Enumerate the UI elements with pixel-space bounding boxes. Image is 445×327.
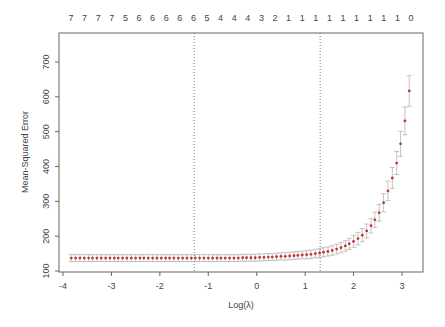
data-point [109,257,112,260]
data-point [344,245,347,248]
top-axis-label: 0 [408,13,413,23]
top-axis-label: 7 [82,13,87,23]
top-axis-label: 1 [286,13,291,23]
top-axis-label: 4 [218,13,223,23]
data-point [305,253,308,256]
data-point [164,257,167,260]
data-point [100,257,103,260]
data-point [96,257,99,260]
data-point [288,255,291,258]
data-point [370,224,373,227]
data-point [139,257,142,260]
data-point [74,257,77,260]
top-axis-label: 7 [96,13,101,23]
x-tick-label: 2 [351,281,356,291]
data-point [275,255,278,258]
data-point [87,257,90,260]
y-axis-title: Mean-Squared Error [20,111,30,193]
data-point [233,257,236,260]
data-point [134,257,137,260]
top-axis-label: 6 [164,13,169,23]
data-point [365,230,368,233]
data-point [318,251,321,254]
data-point [357,237,360,240]
y-tick-label: 200 [41,229,51,244]
x-axis: -4-3-2-10123 [59,272,405,291]
plot-frame [59,33,423,272]
y-tick-label: 400 [41,159,51,174]
y-tick-label: 100 [41,263,51,278]
data-point [117,257,120,260]
data-point [113,257,116,260]
data-point [91,257,94,260]
data-point [258,256,261,259]
data-point [271,256,274,259]
data-point [194,257,197,260]
data-point [70,257,73,260]
data-point [190,257,193,260]
x-axis-title: Log(λ) [228,300,254,310]
top-axis-label: 4 [245,13,250,23]
top-axis-label: 6 [136,13,141,23]
data-point [267,256,270,259]
x-tick-label: 1 [303,281,308,291]
data-point [331,249,334,252]
data-point [340,246,343,249]
data-point [156,257,159,260]
data-point [335,248,338,251]
data-point [301,254,304,257]
data-point [121,257,124,260]
data-point [207,257,210,260]
data-point [373,218,376,221]
top-axis-label: 1 [327,13,332,23]
top-axis-label: 1 [395,13,400,23]
data-point [395,162,398,165]
data-point [126,257,129,260]
data-point [147,257,150,260]
data-point [310,253,313,256]
data-point [142,257,145,260]
data-point [322,251,325,254]
y-axis: 100200300400500600700 [41,55,59,279]
x-tick-label: -4 [59,281,67,291]
top-axis-label: 3 [259,13,264,23]
lambda-reference-lines [194,33,320,272]
data-point [293,254,296,257]
data-point [224,257,227,260]
data-point [241,256,244,259]
data-point [228,257,231,260]
data-point [177,257,180,260]
data-point [211,257,214,260]
data-point [173,257,176,260]
data-point [263,256,266,259]
data-point [250,256,253,259]
data-point [361,234,364,237]
data-point [352,240,355,243]
data-point [160,257,163,260]
top-axis-label: 1 [300,13,305,23]
top-axis-label: 1 [340,13,345,23]
data-point [378,211,381,214]
data-point [83,257,86,260]
top-axis-label: 1 [368,13,373,23]
top-axis-label: 1 [381,13,386,23]
data-point [391,177,394,180]
data-point [387,189,390,192]
y-tick-label: 600 [41,89,51,104]
top-axis-label: 6 [191,13,196,23]
data-point [130,257,133,260]
top-axis-label: 1 [313,13,318,23]
data-point [254,256,257,259]
y-tick-label: 700 [41,55,51,70]
data-point [203,257,206,260]
data-point [284,255,287,258]
data-point [151,257,154,260]
data-point [181,257,184,260]
data-point [104,257,107,260]
top-axis-label: 7 [68,13,73,23]
data-point [408,90,411,93]
data-point [382,201,385,204]
data-point [314,252,317,255]
top-axis-label: 6 [177,13,182,23]
data-points [70,90,411,260]
